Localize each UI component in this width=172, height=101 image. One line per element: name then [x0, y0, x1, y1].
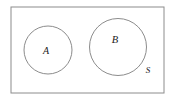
universal-set-rectangle: [11, 7, 164, 93]
set-b-label: B: [112, 34, 119, 45]
set-a-label: A: [42, 45, 50, 56]
venn-diagram-canvas: A B S: [0, 0, 172, 101]
venn-diagram-figure: A B S: [0, 0, 172, 101]
universal-set-label: S: [146, 65, 151, 75]
set-b-circle: [90, 19, 147, 76]
